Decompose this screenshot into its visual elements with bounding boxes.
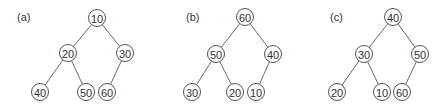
node-value: 60	[396, 87, 408, 99]
edges	[45, 25, 121, 86]
tree-node: 10	[374, 84, 391, 101]
tree-node: 30	[356, 46, 373, 63]
tree-edge	[111, 61, 122, 85]
tree-panel-b: (b) 605040302010	[184, 9, 282, 101]
node-value: 10	[91, 13, 103, 25]
tree-edge	[406, 62, 417, 85]
tree-node: 20	[227, 84, 244, 101]
tree-edge	[102, 25, 119, 47]
tree-node: 30	[117, 45, 134, 62]
binary-tree-diagrams: (a) 102030405060 (b) 605040302010 (c) 40…	[0, 0, 447, 112]
tree-edge	[72, 61, 83, 85]
tree-node: 50	[412, 46, 429, 63]
tree-panel-a: (a) 102030405060	[17, 10, 134, 101]
node-value: 40	[387, 12, 399, 24]
tree-node: 30	[184, 84, 201, 101]
node-value: 20	[229, 87, 241, 99]
tree-node: 40	[32, 84, 49, 101]
node-value: 50	[210, 49, 222, 61]
panel-label-c: (c)	[330, 11, 343, 23]
tree-node: 20	[329, 84, 346, 101]
tree-node: 40	[385, 9, 402, 26]
tree-panel-c: (c) 403050201060	[329, 9, 429, 101]
tree-edge	[45, 60, 63, 85]
tree-node: 50	[78, 84, 95, 101]
node-value: 40	[267, 49, 279, 61]
node-value: 30	[119, 48, 131, 60]
tree-node: 60	[99, 84, 116, 101]
tree-node: 20	[60, 45, 77, 62]
node-value: 40	[34, 87, 46, 99]
tree-node: 10	[89, 10, 106, 27]
tree-node: 10	[248, 84, 265, 101]
tree-node: 60	[237, 9, 254, 26]
tree-edge	[197, 61, 212, 85]
tree-edge	[220, 62, 231, 85]
node-value: 20	[62, 48, 74, 60]
node-value: 50	[80, 87, 92, 99]
tree-node: 50	[208, 46, 225, 63]
node-value: 60	[101, 87, 113, 99]
tree-edge	[221, 24, 240, 48]
tree-node: 40	[265, 46, 282, 63]
node-value: 30	[186, 87, 198, 99]
node-value: 50	[414, 49, 426, 61]
node-value: 30	[358, 49, 370, 61]
tree-edge	[342, 61, 359, 85]
node-value: 20	[331, 87, 343, 99]
tree-edge	[398, 24, 415, 47]
node-value: 10	[376, 87, 388, 99]
tree-edge	[368, 62, 379, 85]
edges	[342, 24, 416, 85]
tree-edge	[250, 24, 268, 47]
node-value: 60	[239, 12, 251, 24]
panel-label-a: (a)	[17, 11, 30, 23]
tree-edge	[73, 25, 91, 47]
panel-label-b: (b)	[186, 11, 199, 23]
tree-edge	[259, 62, 269, 84]
tree-edge	[369, 24, 388, 48]
node-value: 10	[250, 87, 262, 99]
tree-node: 60	[394, 84, 411, 101]
